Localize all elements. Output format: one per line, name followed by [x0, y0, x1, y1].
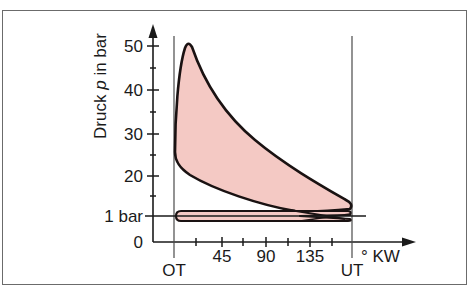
pv-diagram: 50 40 30 20 1 bar 0 OT 45 90 135 UT ° KW…	[0, 0, 474, 296]
y-tick-label-1bar: 1 bar	[104, 207, 143, 226]
x-tick-label-90: 90	[257, 247, 276, 266]
y-tick-label-20: 20	[124, 167, 143, 186]
x-tick-label-135: 135	[296, 247, 324, 266]
y-tick-label-30: 30	[124, 125, 143, 144]
y-axis-label: Druck p in bar	[91, 33, 110, 139]
x-tick-label-45: 45	[213, 247, 232, 266]
work-loop	[175, 44, 351, 212]
x-tick-label-ut: UT	[341, 261, 364, 280]
y-axis-arrow-icon	[149, 24, 158, 38]
y-tick-label-0: 0	[134, 233, 143, 252]
x-tick-label-ot: OT	[162, 261, 186, 280]
y-tick-label-50: 50	[124, 37, 143, 56]
x-axis-label: ° KW	[361, 247, 400, 266]
x-axis-arrow-icon	[402, 238, 416, 247]
y-tick-label-40: 40	[124, 81, 143, 100]
